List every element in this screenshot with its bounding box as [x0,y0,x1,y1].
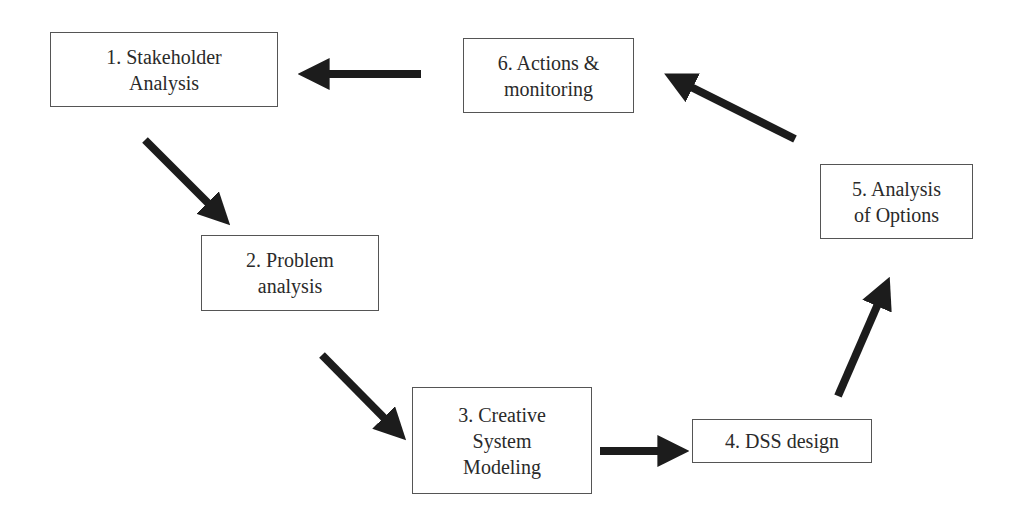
arrow-2-to-3 [322,355,396,430]
node-creative-system-modeling: 3. Creative System Modeling [412,387,592,494]
node-label-line: of Options [854,202,939,228]
arrow-1-to-2 [145,140,220,215]
node-label-line: 6. Actions & [498,50,600,76]
node-label-line: 1. Stakeholder [106,44,222,70]
node-stakeholder-analysis: 1. Stakeholder Analysis [50,32,278,107]
arrow-5-to-6 [677,80,795,139]
node-label-line: 2. Problem [246,247,334,273]
node-label-line: analysis [258,273,322,299]
node-label-line: Analysis [129,70,199,96]
node-label-line: 3. Creative [458,402,546,428]
node-label-line: Modeling [463,454,541,480]
node-label-line: 4. DSS design [725,428,839,454]
node-label-line: System [473,428,532,454]
arrow-4-to-5 [838,290,884,396]
node-actions-monitoring: 6. Actions & monitoring [463,38,634,113]
node-problem-analysis: 2. Problem analysis [201,235,379,311]
node-dss-design: 4. DSS design [692,419,872,463]
node-label-line: 5. Analysis [852,176,941,202]
node-analysis-of-options: 5. Analysis of Options [820,164,973,239]
node-label-line: monitoring [504,76,593,102]
